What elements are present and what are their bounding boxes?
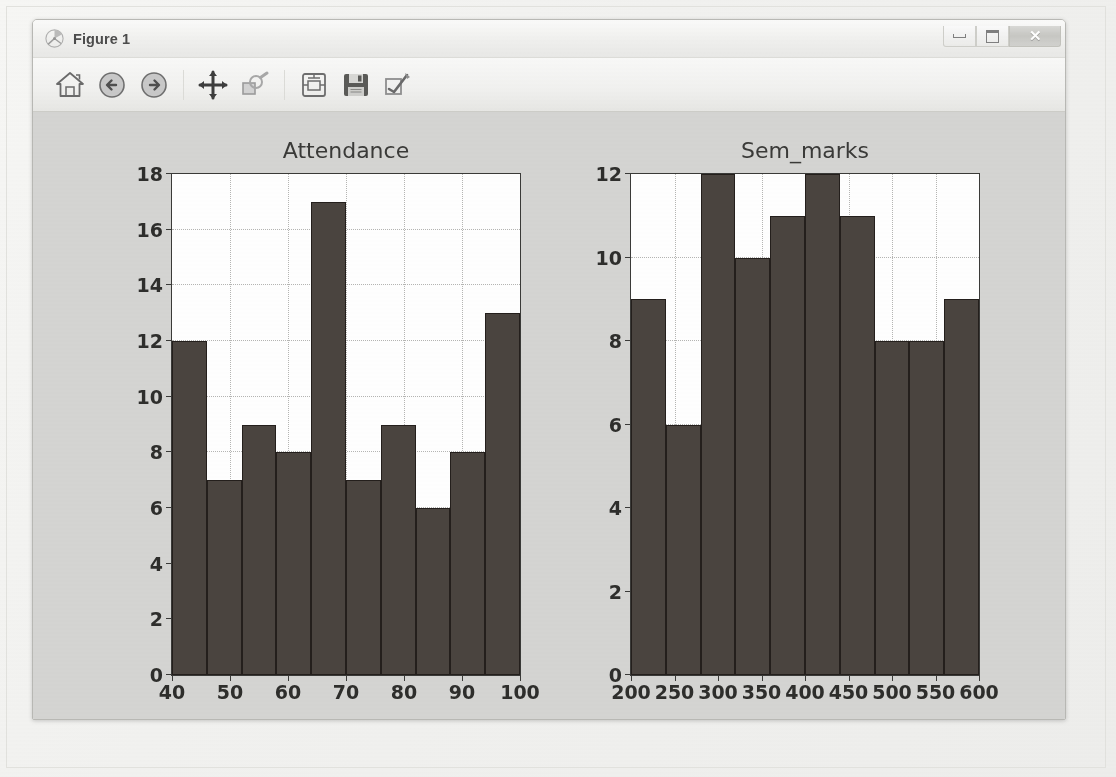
- y-tick-mark: [166, 396, 172, 397]
- histogram-bar: [944, 299, 979, 675]
- histogram-bar: [276, 452, 311, 675]
- histogram-bar: [416, 508, 451, 675]
- histogram-bar: [450, 452, 485, 675]
- zoom-button[interactable]: [235, 65, 275, 105]
- y-tick-mark: [166, 284, 172, 285]
- y-tick-label: 12: [137, 332, 172, 351]
- histogram-bar: [701, 174, 736, 675]
- pan-move-icon: [198, 70, 228, 100]
- y-tick-mark: [625, 173, 631, 174]
- y-tick-mark: [166, 563, 172, 564]
- x-tick-mark: [718, 675, 719, 681]
- histogram-bar: [909, 341, 944, 675]
- histogram-bar: [805, 174, 840, 675]
- y-tick-label: 16: [137, 220, 172, 239]
- histogram-bar: [840, 216, 875, 675]
- x-tick-mark: [172, 675, 173, 681]
- histogram-bar: [346, 480, 381, 675]
- histogram-bar: [770, 216, 805, 675]
- y-tick-label: 4: [609, 499, 631, 518]
- x-tick-mark: [288, 675, 289, 681]
- sem-marks-axes[interactable]: Sem_marks 024681012 20025030035040045050…: [630, 173, 980, 676]
- y-tick-mark: [625, 257, 631, 258]
- y-tick-label: 2: [609, 582, 631, 601]
- minimize-icon: [953, 34, 966, 38]
- histogram-bar: [381, 425, 416, 676]
- forward-button[interactable]: [134, 65, 174, 105]
- y-tick-label: 8: [150, 443, 172, 462]
- histogram-bar: [311, 202, 346, 675]
- close-icon: ✕: [1029, 27, 1042, 45]
- window-title: Figure 1: [73, 31, 130, 47]
- edit-button[interactable]: [378, 65, 418, 105]
- histogram-bar: [875, 341, 910, 675]
- histogram-bar: [485, 313, 520, 675]
- attendance-title: Attendance: [172, 138, 520, 163]
- save-button[interactable]: [336, 65, 376, 105]
- minimize-button[interactable]: [943, 26, 976, 47]
- figure-window: Figure 1 ✕: [32, 19, 1066, 720]
- toolbar-separator: [183, 70, 184, 100]
- y-tick-mark: [166, 507, 172, 508]
- y-tick-mark: [625, 424, 631, 425]
- histogram-bar: [735, 258, 770, 676]
- y-tick-mark: [625, 340, 631, 341]
- navigation-toolbar: [33, 58, 1065, 112]
- window-controls: ✕: [943, 24, 1061, 50]
- sem-marks-title: Sem_marks: [631, 138, 979, 163]
- histogram-bar: [207, 480, 242, 675]
- x-tick-mark: [762, 675, 763, 681]
- maximize-button[interactable]: [976, 26, 1009, 47]
- y-tick-label: 4: [150, 554, 172, 573]
- x-tick-mark: [230, 675, 231, 681]
- y-tick-label: 6: [150, 499, 172, 518]
- back-arrow-icon: [97, 70, 127, 100]
- y-tick-mark: [166, 618, 172, 619]
- y-tick-mark: [166, 340, 172, 341]
- y-tick-label: 10: [137, 387, 172, 406]
- attendance-axes[interactable]: Attendance 024681012141618 4050607080901…: [171, 173, 521, 676]
- forward-arrow-icon: [139, 70, 169, 100]
- subplots-button[interactable]: [294, 65, 334, 105]
- zoom-rect-icon: [240, 70, 270, 100]
- x-tick-mark: [346, 675, 347, 681]
- y-tick-label: 14: [137, 276, 172, 295]
- histogram-bar: [172, 341, 207, 675]
- x-tick-mark: [462, 675, 463, 681]
- y-tick-label: 8: [609, 332, 631, 351]
- back-button[interactable]: [92, 65, 132, 105]
- x-tick-mark: [404, 675, 405, 681]
- y-tick-mark: [625, 507, 631, 508]
- maximize-icon: [986, 30, 999, 43]
- x-tick-mark: [849, 675, 850, 681]
- x-tick-mark: [631, 675, 632, 681]
- x-tick-mark: [675, 675, 676, 681]
- y-tick-label: 6: [609, 415, 631, 434]
- x-tick-mark: [936, 675, 937, 681]
- x-tick-mark: [979, 675, 980, 681]
- pan-button[interactable]: [193, 65, 233, 105]
- y-tick-label: 12: [596, 165, 631, 184]
- y-tick-label: 18: [137, 165, 172, 184]
- y-tick-mark: [166, 229, 172, 230]
- x-tick-mark: [520, 675, 521, 681]
- y-tick-mark: [166, 173, 172, 174]
- title-bar: Figure 1 ✕: [33, 20, 1065, 58]
- matplotlib-icon: [45, 29, 64, 48]
- figure-canvas[interactable]: Attendance 024681012141618 4050607080901…: [33, 112, 1065, 719]
- save-disk-icon: [341, 70, 371, 100]
- home-icon: [55, 70, 85, 100]
- attendance-bars: [172, 174, 520, 675]
- y-tick-mark: [166, 451, 172, 452]
- edit-curves-icon: [383, 70, 413, 100]
- y-tick-mark: [625, 591, 631, 592]
- histogram-bar: [631, 299, 666, 675]
- configure-subplots-icon: [299, 70, 329, 100]
- histogram-bar: [242, 425, 277, 676]
- y-tick-label: 2: [150, 610, 172, 629]
- home-button[interactable]: [50, 65, 90, 105]
- sem-marks-bars: [631, 174, 979, 675]
- x-tick-mark: [805, 675, 806, 681]
- close-button[interactable]: ✕: [1009, 26, 1061, 47]
- toolbar-separator: [284, 70, 285, 100]
